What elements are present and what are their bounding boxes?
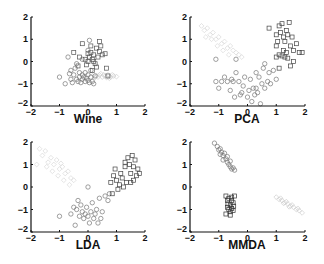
data-point [268,82,272,86]
data-point [49,155,54,160]
data-point [56,173,61,178]
panel-pca: −2−1012−1012−2 [177,12,308,117]
data-point [221,48,226,53]
data-point [130,154,134,158]
data-point [37,146,42,151]
series-class-2 [224,194,237,217]
data-point [214,79,218,83]
data-point [44,164,49,169]
y-tick-label: 2 [23,12,28,22]
y-tick-label: 2 [182,137,187,147]
data-point [199,24,204,29]
data-point [97,196,101,200]
series-class-3 [91,71,119,80]
data-point [260,82,264,86]
data-point [286,56,290,60]
xlabel-mmda: MMDA [228,238,266,252]
data-point [228,88,232,92]
data-point [120,176,124,180]
data-point [67,182,72,187]
data-point [76,198,80,202]
data-point [100,210,104,214]
data-point [112,174,116,178]
data-point [231,48,236,53]
data-point [57,167,62,172]
data-point [71,178,76,183]
x-tick-label: −1 [54,233,64,243]
data-point [267,26,271,30]
data-point [286,33,290,37]
data-point [119,172,123,176]
series-class-3 [274,195,305,216]
data-point [40,153,45,158]
data-point [247,88,251,92]
axes [31,17,145,106]
data-point [99,216,103,220]
y-tick-label: 0 [182,57,187,67]
data-point [274,44,278,48]
data-point [126,156,130,160]
data-point [277,66,281,70]
data-point [80,210,84,214]
data-point [245,95,249,99]
data-point [123,165,127,169]
data-point [226,52,231,57]
data-point [254,86,258,90]
y-tick-label: 1 [182,34,187,44]
data-point [99,44,103,48]
data-point [89,75,93,79]
data-point [265,79,269,83]
data-point [97,39,101,43]
panel-lda: −2−1012−1012−2 [18,137,148,243]
data-point [63,82,67,86]
x-tick-label: 1 [114,107,119,117]
data-point [57,75,61,79]
data-point [117,183,121,187]
data-point [94,207,98,211]
y-tick-label: 0 [23,182,28,192]
y-tick-label: −1 [177,205,187,215]
y-tick-label: −2 [18,98,28,108]
data-point [205,26,210,31]
x-tick-label: −1 [214,233,224,243]
data-point [239,55,244,60]
data-point [222,75,226,79]
data-point [274,33,278,37]
data-point [66,55,70,59]
data-point [225,79,229,83]
x-tick-label: 2 [302,107,307,117]
data-point [203,35,208,40]
data-point [127,163,131,167]
data-point [234,50,239,55]
series-class-2 [267,21,304,71]
panel-mmda: −2−1012−1012−2 [177,137,308,243]
series-class-1 [57,38,97,86]
data-point [283,55,287,59]
data-point [51,162,56,167]
data-point [69,176,74,181]
y-tick-label: 1 [23,34,28,44]
data-point [258,102,262,106]
y-tick-label: −2 [177,224,187,234]
x-tick-label: 1 [114,233,119,243]
data-point [90,201,94,205]
xlabel-lda: LDA [76,238,101,252]
data-point [202,28,207,33]
data-point [87,38,91,42]
data-point [89,210,93,214]
data-point [280,54,284,58]
data-point [83,70,87,74]
data-point [211,30,216,35]
data-point [34,162,39,167]
data-point [122,185,126,189]
data-point [72,51,76,55]
data-point [86,185,90,189]
data-point [57,214,61,218]
data-point [257,75,261,79]
data-point [84,205,88,209]
data-point [263,62,267,66]
x-tick-label: −2 [26,107,36,117]
data-point [66,169,71,174]
series-class-1 [212,141,237,172]
data-point [214,57,218,61]
